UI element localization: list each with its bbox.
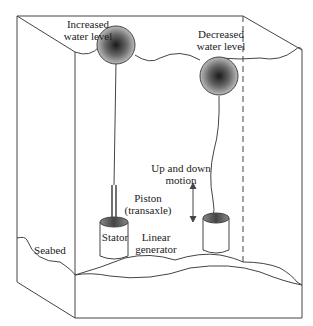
wave-energy-diagram: Increased water level Decreased water le… <box>0 0 313 326</box>
label-line: generator <box>126 243 186 255</box>
seabed-lower-line <box>75 266 302 285</box>
label-line: motion <box>146 174 216 186</box>
label-line: Decreased <box>186 28 256 40</box>
label-up-down-motion: Up and down motion <box>146 162 216 186</box>
label-line: Linear <box>126 231 186 243</box>
right-stator-top <box>203 213 229 223</box>
label-line: water level <box>186 40 256 52</box>
box-front-left-edge <box>17 16 75 318</box>
label-decreased-water-level: Decreased water level <box>186 28 256 52</box>
label-line: Piston <box>116 192 180 204</box>
label-piston: Piston (transaxle) <box>116 192 180 216</box>
label-seabed: Seabed <box>30 244 70 256</box>
label-increased-water-level: Increased water level <box>48 18 128 42</box>
left-stator-top <box>100 217 128 227</box>
label-line: (transaxle) <box>116 204 180 216</box>
label-line: Up and down <box>146 162 216 174</box>
label-line: Increased <box>48 18 128 30</box>
left-tether <box>114 62 116 185</box>
right-tether <box>211 96 219 218</box>
label-linear-generator: Linear generator <box>126 231 186 255</box>
label-line: water level <box>48 30 128 42</box>
right-buoy-decreased-level <box>200 57 238 95</box>
